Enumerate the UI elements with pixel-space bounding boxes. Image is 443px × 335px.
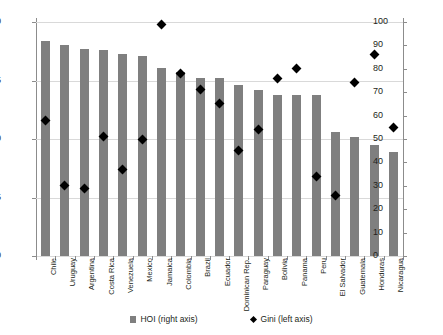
legend-item-hoi[interactable]: HOI (right axis) [130,314,197,324]
bar [254,90,263,256]
category-label: Colombia [184,258,193,290]
right-axis-tick-label: 40 [373,156,403,166]
category-label: Bolivia [280,258,289,280]
plot-area [36,22,403,256]
diamond-swatch-icon [250,315,257,322]
left-axis-tick-label: 0.60 [0,16,1,26]
legend-item-gini[interactable]: Gini (left axis) [250,314,313,324]
category-label: Mexico [145,258,154,282]
left-axis-tick-label: 0.40 [0,250,1,260]
bar [196,78,205,256]
right-axis-tick-label: 70 [373,86,403,96]
bar [157,68,166,256]
bar-swatch-icon [130,316,136,323]
bar [118,54,127,256]
gridline [36,22,403,23]
right-axis-tick [403,139,407,140]
category-label: Venezuela [126,258,135,293]
category-label: El Salvador [338,258,347,296]
category-label: Brazil [203,258,212,277]
right-axis-tick [403,233,407,234]
category-label: Chile [49,258,58,275]
left-axis-tick-label: 0.50 [0,133,1,143]
data-point [292,64,302,74]
left-axis-tick [32,198,36,199]
data-point [369,50,379,60]
left-axis-tick [32,81,36,82]
left-axis-tick-label: 0.45 [0,192,1,202]
chart-legend: HOI (right axis) Gini (left axis) [0,314,443,324]
bar [176,72,185,256]
category-label: Nicaragua [396,258,405,292]
left-axis-tick [32,22,36,23]
right-axis-tick-label: 10 [373,227,403,237]
right-axis-tick [403,45,407,46]
right-axis-tick [403,92,407,93]
right-axis-tick-label: 60 [373,110,403,120]
chart-container: 0.400.450.500.550.60 0102030405060708090… [0,0,443,335]
right-axis-tick-label: 30 [373,180,403,190]
data-point [157,19,167,29]
bar [41,41,50,256]
category-label: Argentina [87,258,96,290]
category-label: Guatemala [358,258,367,295]
bar [234,85,243,256]
bar [292,95,301,256]
bar [99,50,108,256]
data-point [388,122,398,132]
category-label: Jamaica [165,258,174,286]
category-label: Costa Rica [107,258,116,295]
data-point [350,78,360,88]
category-label: Uruguay [68,258,77,286]
right-axis-tick [403,162,407,163]
legend-label-gini: Gini (left axis) [261,314,313,324]
gridline [36,256,403,257]
category-label: Dominican Rep. [242,258,251,311]
right-axis-tick-label: 50 [373,133,403,143]
left-axis-tick [32,139,36,140]
legend-label-hoi: HOI (right axis) [140,314,197,324]
bar [350,137,359,256]
right-axis-tick-label: 20 [373,203,403,213]
category-label: Panama [300,258,309,286]
category-label: Peru [319,258,328,274]
category-axis-labels: ChileUruguayArgentinaCosta RicaVenezuela… [36,258,403,306]
left-axis-tick-label: 0.55 [0,75,1,85]
right-axis-tick [403,22,407,23]
category-label: Ecuador [223,258,232,286]
right-axis-tick-label: 80 [373,63,403,73]
right-axis-tick-label: 100 [373,16,403,26]
right-axis-tick [403,209,407,210]
right-axis-tick [403,186,407,187]
bar [80,49,89,256]
bar [60,45,69,256]
category-label: Honduras [377,258,386,291]
data-point [272,73,282,83]
bar [138,56,147,256]
right-axis-tick [403,69,407,70]
right-axis-tick-label: 90 [373,39,403,49]
bar [273,95,282,256]
category-label: Paraguay [261,258,270,290]
right-axis-tick [403,116,407,117]
